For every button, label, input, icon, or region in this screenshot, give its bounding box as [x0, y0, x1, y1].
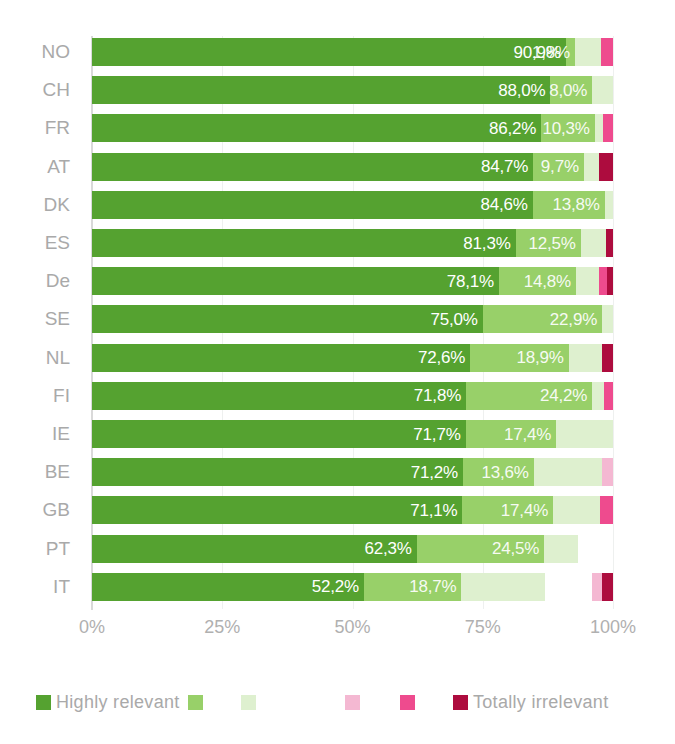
bar-row: 71,2%13,6% [92, 458, 613, 486]
bar-value-label: 62,3% [364, 540, 416, 557]
bar-segment: 84,7% [92, 153, 533, 181]
y-axis-tick-labels: NOCHFRATDKESDeSENLFIIEBEGBPTIT [0, 36, 84, 609]
y-tick-label-gb: GB [43, 496, 70, 524]
bar-segment: 71,8% [92, 382, 466, 410]
chart-legend: Highly relevantTotally irrelevant [0, 686, 675, 718]
bar-row: 52,2%18,7% [92, 573, 613, 601]
bar-value-label: 14,8% [524, 273, 576, 290]
bar-value-label: 17,4% [501, 502, 553, 519]
bar-segment: 1,8% [566, 38, 575, 66]
bar-row: 88,0%8,0% [92, 76, 613, 104]
bar-segment [599, 267, 607, 295]
x-tick-label-0pct: 0% [79, 617, 105, 638]
bar-segment: 71,7% [92, 420, 466, 448]
bar-segment: 12,5% [516, 229, 581, 257]
legend-item[interactable]: Highly relevant [36, 686, 180, 718]
y-tick-label-es: ES [45, 229, 70, 257]
bar-rows: 90,9%1,8%88,0%8,0%86,2%10,3%84,7%9,7%84,… [92, 36, 613, 609]
bar-segment: 13,6% [463, 458, 534, 486]
bar-segment [569, 344, 602, 372]
bar-segment [599, 153, 613, 181]
bar-segment: 17,4% [466, 420, 557, 448]
bar-segment: 14,8% [499, 267, 576, 295]
y-tick-label-de: De [46, 267, 70, 295]
y-tick-label-ie: IE [52, 420, 70, 448]
bar-row: 62,3%24,5% [92, 535, 613, 563]
stacked-bar-chart: NOCHFRATDKESDeSENLFIIEBEGBPTIT 90,9%1,8%… [0, 0, 675, 744]
bar-value-label: 22,9% [550, 311, 602, 328]
bar-row: 72,6%18,9% [92, 344, 613, 372]
bar-segment [601, 38, 613, 66]
bar-segment [584, 153, 600, 181]
legend-item[interactable] [241, 686, 256, 718]
bar-value-label: 71,7% [413, 426, 465, 443]
bar-segment [534, 458, 602, 486]
x-tick-label-25pct: 25% [204, 617, 240, 638]
legend-item[interactable]: Totally irrelevant [453, 686, 608, 718]
bar-segment: 10,3% [541, 114, 595, 142]
legend-item[interactable] [188, 686, 203, 718]
bar-segment [602, 344, 613, 372]
bar-segment [602, 305, 613, 333]
y-tick-label-nl: NL [46, 344, 70, 372]
legend-label: Highly relevant [56, 692, 180, 713]
bar-segment: 62,3% [92, 535, 417, 563]
bar-segment: 71,1% [92, 496, 462, 524]
y-tick-label-se: SE [45, 305, 70, 333]
bar-segment: 81,3% [92, 229, 516, 257]
legend-label: Totally irrelevant [473, 692, 608, 713]
legend-swatch-icon [188, 695, 203, 710]
bar-segment: 24,2% [466, 382, 592, 410]
bar-segment: 18,7% [364, 573, 461, 601]
bar-value-label: 86,2% [489, 120, 541, 137]
bar-segment [576, 267, 599, 295]
legend-swatch-icon [453, 695, 468, 710]
bar-segment: 18,9% [470, 344, 568, 372]
bar-value-label: 72,6% [418, 349, 470, 366]
y-tick-label-no: NO [42, 38, 71, 66]
legend-item[interactable] [345, 686, 360, 718]
bar-segment [461, 573, 544, 601]
bar-segment: 52,2% [92, 573, 364, 601]
bar-segment: 86,2% [92, 114, 541, 142]
legend-swatch-icon [241, 695, 256, 710]
bar-segment [581, 229, 606, 257]
y-tick-label-ch: CH [43, 76, 70, 104]
bar-row: 71,1%17,4% [92, 496, 613, 524]
y-tick-label-fi: FI [53, 382, 70, 410]
bar-segment [575, 38, 601, 66]
bar-value-label: 84,6% [481, 196, 533, 213]
bar-value-label: 75,0% [431, 311, 483, 328]
bar-value-label: 78,1% [447, 273, 499, 290]
legend-item[interactable] [400, 686, 415, 718]
bar-row: 71,8%24,2% [92, 382, 613, 410]
bar-value-label: 71,1% [410, 502, 462, 519]
plot-area: 90,9%1,8%88,0%8,0%86,2%10,3%84,7%9,7%84,… [92, 36, 613, 609]
bar-segment [556, 420, 613, 448]
bar-value-label: 52,2% [312, 578, 364, 595]
bar-value-label: 10,3% [543, 120, 595, 137]
bar-segment: 8,0% [550, 76, 592, 104]
bar-value-label: 18,7% [409, 578, 461, 595]
bar-value-label: 8,0% [549, 82, 592, 99]
bar-segment [605, 191, 613, 219]
bar-value-label: 88,0% [498, 82, 550, 99]
legend-swatch-icon [36, 695, 51, 710]
legend-swatch-icon [400, 695, 415, 710]
bar-segment: 88,0% [92, 76, 550, 104]
legend-swatch-icon [345, 695, 360, 710]
bar-value-label: 81,3% [463, 235, 515, 252]
bar-segment: 90,9% [92, 38, 566, 66]
bar-segment [553, 496, 600, 524]
bar-row: 71,7%17,4% [92, 420, 613, 448]
bar-segment [592, 382, 603, 410]
x-tick-label-50pct: 50% [334, 617, 370, 638]
bar-segment: 71,2% [92, 458, 463, 486]
bar-segment [595, 114, 603, 142]
bar-value-label: 13,6% [482, 464, 534, 481]
bar-row: 84,7%9,7% [92, 153, 613, 181]
bar-value-label: 24,2% [540, 387, 592, 404]
bar-segment [607, 267, 613, 295]
bar-segment: 17,4% [462, 496, 553, 524]
y-tick-label-it: IT [53, 573, 70, 601]
